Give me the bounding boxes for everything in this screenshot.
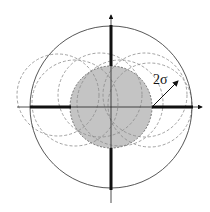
diagram: 2σ <box>0 0 210 212</box>
circle-diagram <box>0 0 210 212</box>
sigma-label: 2σ <box>153 72 168 88</box>
